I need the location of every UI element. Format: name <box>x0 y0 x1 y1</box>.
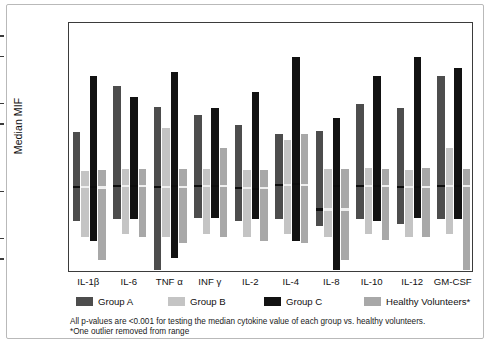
range-bar <box>316 131 324 225</box>
median-line <box>437 185 445 187</box>
x-axis-label: GM-CSF <box>434 276 472 287</box>
legend-swatch <box>168 297 185 306</box>
x-axis-label: IL-12 <box>401 276 423 287</box>
median-line <box>73 186 81 188</box>
legend-item: Group B <box>168 296 226 307</box>
median-line <box>211 185 219 187</box>
x-axis-label: IL-8 <box>323 276 340 287</box>
range-bar <box>365 168 373 234</box>
median-line <box>422 186 430 188</box>
median-line <box>171 185 179 187</box>
median-line <box>284 184 292 186</box>
median-line <box>414 186 422 188</box>
median-line <box>154 186 162 188</box>
y-tick-mark <box>0 35 4 36</box>
median-line <box>333 185 341 187</box>
y-tick-mark <box>0 238 4 239</box>
median-line <box>235 187 243 189</box>
median-line <box>81 186 89 188</box>
median-line <box>275 184 283 186</box>
range-bar <box>414 57 422 218</box>
median-line <box>341 208 349 210</box>
range-bar <box>284 140 292 234</box>
x-axis-label: IL-10 <box>361 276 383 287</box>
range-bar <box>139 169 147 237</box>
median-line <box>260 187 268 189</box>
range-bar <box>422 168 430 237</box>
legend-item: Group C <box>264 296 322 307</box>
legend-item: Healthy Volunteers* <box>364 296 470 307</box>
median-line <box>292 183 300 185</box>
x-axis-label: INF γ <box>198 276 221 287</box>
median-line <box>454 185 462 187</box>
y-tick-mark <box>0 123 4 124</box>
median-line <box>90 186 98 188</box>
range-bar <box>446 148 454 235</box>
range-bar <box>90 76 98 241</box>
legend-swatch <box>364 297 381 306</box>
median-line <box>194 185 202 187</box>
range-bar <box>373 76 381 220</box>
legend-swatch <box>264 297 281 306</box>
legend-label: Healthy Volunteers* <box>386 296 470 307</box>
plot-area <box>68 22 473 272</box>
y-axis-title: Median MIF <box>12 66 24 186</box>
range-bar <box>252 92 260 219</box>
median-line <box>139 185 147 187</box>
x-axis-label: IL-6 <box>120 276 137 287</box>
range-bar <box>171 72 179 258</box>
median-line <box>373 185 381 187</box>
range-bar <box>260 170 268 241</box>
range-bar <box>113 86 121 220</box>
y-tick-mark <box>0 56 4 57</box>
footnote-line-2: *One outlier removed from range <box>70 327 470 337</box>
legend-label: Group C <box>286 296 322 307</box>
x-axis-labels: IL-1βIL-6TNF αINF γIL-2IL-4IL-8IL-10IL-1… <box>68 276 473 292</box>
range-bar <box>324 169 332 237</box>
median-line <box>446 185 454 187</box>
range-bar <box>73 132 81 221</box>
median-line <box>243 187 251 189</box>
range-bar <box>341 169 349 260</box>
legend-label: Group B <box>190 296 226 307</box>
range-bar <box>301 134 309 242</box>
median-line <box>122 185 130 187</box>
x-axis-label: IL-2 <box>242 276 259 287</box>
range-bar <box>194 115 202 218</box>
median-line <box>316 208 324 210</box>
range-bar <box>220 148 228 237</box>
range-bar <box>211 108 219 218</box>
range-bar <box>356 104 364 219</box>
range-bar <box>203 169 211 234</box>
plot-inner <box>69 23 472 271</box>
range-bar <box>405 170 413 237</box>
x-axis-label: IL-4 <box>282 276 299 287</box>
range-bar <box>292 57 300 242</box>
median-line <box>220 185 228 187</box>
range-bar <box>243 170 251 237</box>
median-line <box>356 185 364 187</box>
legend-swatch <box>76 297 93 306</box>
median-line <box>98 186 106 188</box>
chart-legend: Group AGroup BGroup CHealthy Volunteers* <box>68 296 474 310</box>
y-tick-mark <box>0 103 4 104</box>
median-line <box>113 185 121 187</box>
y-tick-mark <box>0 191 4 192</box>
y-tick-mark <box>0 258 4 259</box>
median-line <box>130 185 138 187</box>
legend-item: Group A <box>76 296 133 307</box>
range-bar <box>162 128 170 236</box>
range-bar <box>382 169 390 240</box>
footnote-line-1: All p-values are <0.001 for testing the … <box>70 317 470 327</box>
median-line <box>365 185 373 187</box>
median-line <box>203 185 211 187</box>
x-axis-label: IL-1β <box>77 276 99 287</box>
median-line <box>179 186 187 188</box>
figure-page: Median MIF 10,0005,0001,00050050105 IL-1… <box>0 0 490 343</box>
range-bar <box>81 171 89 237</box>
median-line <box>162 186 170 188</box>
median-line <box>252 188 260 190</box>
range-bar <box>179 169 187 243</box>
median-line <box>463 185 471 187</box>
range-bar <box>98 170 106 260</box>
